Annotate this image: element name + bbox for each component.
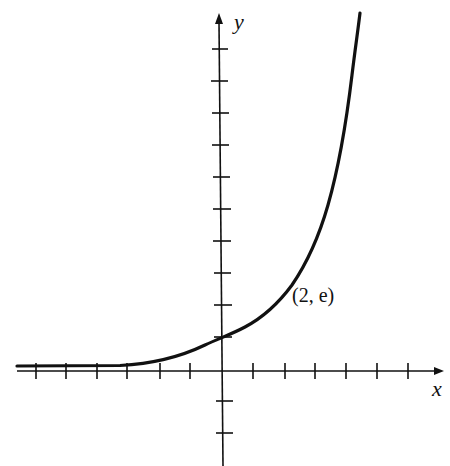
x-axis-arrow-icon <box>434 367 444 375</box>
y-axis-label: y <box>232 9 244 34</box>
exponential-curve <box>17 13 360 366</box>
x-axis-label: x <box>431 376 442 401</box>
y-axis-arrow-icon <box>215 13 223 24</box>
exponential-graph: x y (2, e) <box>0 0 450 466</box>
point-label-text: (2, e) <box>292 284 334 307</box>
x-axis: x <box>17 363 444 401</box>
y-axis: y <box>211 9 244 466</box>
point-label: (2, e) <box>292 284 334 307</box>
